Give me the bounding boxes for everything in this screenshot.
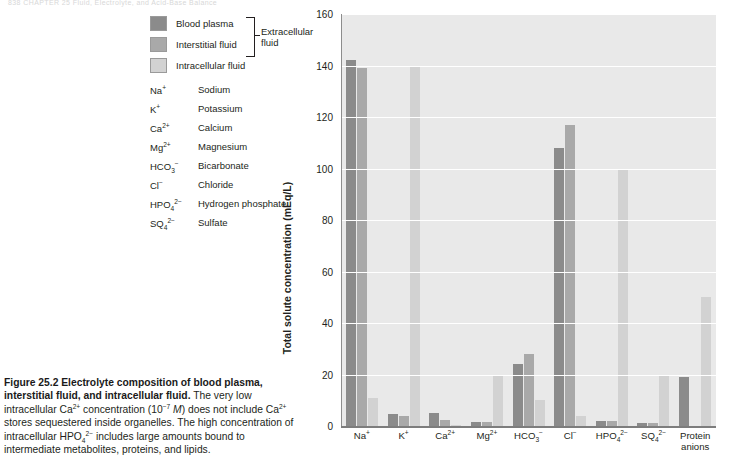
y-tick-label: 160 (316, 9, 333, 20)
gridline (342, 169, 716, 170)
caption-body-2: concentration (10 (80, 404, 162, 415)
figure-page: 838 CHAPTER 25 Fluid, Electrolyte, and A… (0, 0, 734, 475)
extracellular-brace-tick (254, 35, 260, 36)
bar (346, 60, 357, 426)
x-tick-label: SQ42− (633, 430, 675, 452)
plot-area (341, 14, 716, 426)
bar (399, 416, 410, 426)
x-tick-label: Ca2+ (424, 430, 466, 452)
gridline (342, 272, 716, 273)
bar (535, 400, 546, 426)
caption-italic-m: M (173, 404, 182, 415)
x-axis-line (341, 426, 716, 428)
legend-swatch-interstitial-fluid (150, 37, 167, 52)
bar (576, 416, 587, 426)
glossary-symbol: Na+ (150, 84, 198, 96)
glossary-name: Calcium (198, 122, 232, 133)
glossary-name: Chloride (198, 179, 233, 190)
glossary-symbol: SQ42− (150, 217, 198, 229)
gridline (342, 375, 716, 376)
bar (388, 414, 399, 426)
caption-figure-number: Figure 25.2 (4, 377, 58, 388)
glossary-symbol: Mg2+ (150, 141, 198, 153)
extracellular-label-line2: fluid (261, 37, 278, 48)
y-axis-ticks: 020406080100120140160 (299, 8, 337, 426)
legend-label-interstitial-fluid: Interstitial fluid (176, 39, 237, 50)
x-tick-label: Proteinanions (674, 430, 716, 452)
glossary-name: Hydrogen phosphate (198, 198, 286, 209)
legend-swatch-blood-plasma (150, 16, 167, 31)
bar (554, 148, 565, 426)
bar (679, 377, 690, 426)
caption-body-4: ) does not include Ca (182, 404, 279, 415)
caption-sup-5: 2− (86, 429, 94, 436)
x-tick-label: Mg2+ (466, 430, 508, 452)
y-tick-label: 80 (322, 215, 333, 226)
y-tick-label: 40 (322, 318, 333, 329)
glossary-name: Sulfate (198, 217, 228, 228)
x-tick-label: HPO42− (591, 430, 633, 452)
glossary-symbol: K+ (150, 103, 198, 115)
y-tick-label: 60 (322, 266, 333, 277)
y-axis-label: Total solute concentration (mEq/L) (281, 138, 293, 398)
y-tick-label: 20 (322, 369, 333, 380)
bar (368, 398, 379, 426)
gridline (342, 220, 716, 221)
x-tick-label: HCO3− (508, 430, 550, 452)
y-tick-label: 0 (327, 421, 333, 432)
x-tick-label: Cl− (549, 430, 591, 452)
extracellular-brace (246, 17, 255, 57)
legend-item-intracellular-fluid: Intracellular fluid (150, 55, 300, 76)
running-head: 838 CHAPTER 25 Fluid, Electrolyte, and A… (8, 0, 217, 6)
x-tick-label: Na+ (341, 430, 383, 452)
gridline (342, 66, 716, 67)
bar (410, 66, 421, 427)
glossary-name: Bicarbonate (198, 160, 249, 171)
bar (357, 68, 368, 426)
legend-label-intracellular-fluid: Intracellular fluid (176, 60, 245, 71)
caption-sub-5: 4 (82, 437, 86, 444)
bar (618, 169, 629, 427)
bar (493, 375, 504, 427)
y-tick-label: 100 (316, 163, 333, 174)
bar (659, 376, 670, 426)
x-axis-labels: Na+K+Ca2+Mg2+HCO3−Cl−HPO42−SQ42−Proteina… (341, 430, 716, 452)
bar-chart: Total solute concentration (mEq/L) 02040… (283, 8, 734, 468)
glossary-symbol: Cl− (150, 179, 198, 191)
bar (565, 125, 576, 426)
glossary-symbol: HCO3− (150, 160, 198, 172)
bar (524, 354, 535, 426)
y-tick-label: 120 (316, 112, 333, 123)
bar (701, 297, 712, 426)
legend-swatch-intracellular-fluid (150, 58, 167, 73)
bar (513, 364, 524, 426)
y-tick-label: 140 (316, 60, 333, 71)
legend-label-blood-plasma: Blood plasma (176, 18, 234, 29)
gridline (342, 14, 716, 15)
gridline (342, 117, 716, 118)
glossary-name: Potassium (198, 103, 242, 114)
gridline (342, 323, 716, 324)
glossary-name: Sodium (198, 84, 230, 95)
glossary-name: Magnesium (198, 141, 247, 152)
bar (429, 413, 440, 426)
glossary-symbol: HPO42− (150, 198, 198, 210)
glossary-symbol: Ca2+ (150, 122, 198, 134)
figure-caption: Figure 25.2 Electrolyte composition of b… (4, 376, 304, 456)
x-tick-label: K+ (383, 430, 425, 452)
